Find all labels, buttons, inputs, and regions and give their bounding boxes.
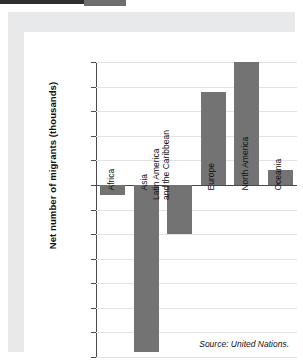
plot-area: 1,0008006004002000–200–400–600–800–1,000… — [96, 62, 297, 357]
y-tick-mark — [91, 234, 96, 235]
y-tick-mark — [91, 332, 96, 333]
bar-category-label: Europe — [208, 163, 218, 190]
gridline — [96, 210, 297, 211]
chart-canvas: Net number of migrants (thousands) 1,000… — [24, 32, 295, 354]
y-tick-mark — [91, 185, 96, 186]
header-rule-secondary — [84, 0, 126, 6]
y-tick-mark — [91, 283, 96, 284]
gridline — [96, 62, 297, 63]
gridline — [96, 357, 297, 358]
gridline — [96, 111, 297, 112]
bar-category-label: Asia — [141, 174, 151, 191]
chart-panel: Net number of migrants (thousands) 1,000… — [8, 12, 295, 352]
bar-category-label: Oceania — [275, 159, 285, 191]
bar-category-label: Africa — [107, 169, 117, 191]
y-tick-mark — [91, 357, 96, 358]
gridline — [96, 160, 297, 161]
gridline — [96, 259, 297, 260]
source-note: Source: United Nations. — [199, 339, 289, 349]
gridline — [96, 87, 297, 88]
y-tick-mark — [91, 111, 96, 112]
gridline — [96, 136, 297, 137]
y-tick-mark — [91, 62, 96, 63]
chart-page: Net number of migrants (thousands) 1,000… — [0, 0, 303, 363]
y-axis-title: Net number of migrants (thousands) — [47, 66, 58, 266]
bar — [167, 185, 192, 234]
gridline — [96, 283, 297, 284]
gridline — [96, 332, 297, 333]
y-tick-mark — [91, 87, 96, 88]
y-tick-mark — [91, 160, 96, 161]
bar — [134, 185, 159, 352]
y-tick-mark — [91, 259, 96, 260]
zero-line — [96, 185, 297, 186]
y-tick-mark — [91, 308, 96, 309]
bar-category-label: North America — [241, 137, 251, 191]
y-tick-mark — [91, 210, 96, 211]
gridline — [96, 308, 297, 309]
bar-category-label: Latin Americaand the Caribbean — [152, 130, 171, 200]
gridline — [96, 234, 297, 235]
y-tick-mark — [91, 136, 96, 137]
